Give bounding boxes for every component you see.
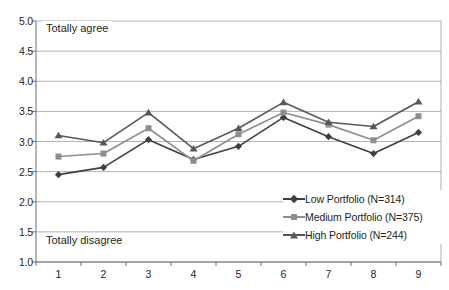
legend-item-label: Medium Portfolio (N=375) (305, 211, 423, 223)
legend-marker-square-icon (283, 210, 305, 224)
x-axis-tick-label: 7 (326, 268, 332, 280)
x-axis-tick-label: 9 (416, 268, 422, 280)
chart-legend: Low Portfolio (N=314)Medium Portfolio (N… (283, 190, 448, 244)
legend-item: High Portfolio (N=244) (283, 226, 448, 244)
legend-item: Low Portfolio (N=314) (283, 190, 448, 208)
annotation-totally-disagree: Totally disagree (42, 233, 126, 247)
x-axis-tick-label: 6 (281, 268, 287, 280)
line-chart: 1.01.52.02.53.03.54.04.55.0 123456789 To… (0, 0, 449, 290)
x-axis-tick-label: 4 (191, 268, 197, 280)
legend-marker-triangle-icon (283, 228, 305, 242)
legend-marker-diamond-icon (283, 192, 305, 206)
legend-item-label: Low Portfolio (N=314) (305, 193, 405, 205)
annotation-totally-agree: Totally agree (42, 21, 112, 35)
legend-item: Medium Portfolio (N=375) (283, 208, 448, 226)
x-axis-tick-label: 3 (146, 268, 152, 280)
x-axis-tick-label: 5 (236, 268, 242, 280)
x-axis-tick-label: 8 (371, 268, 377, 280)
x-axis-tick-label: 2 (101, 268, 107, 280)
legend-item-label: High Portfolio (N=244) (305, 229, 407, 241)
x-axis-tick-label: 1 (56, 268, 62, 280)
